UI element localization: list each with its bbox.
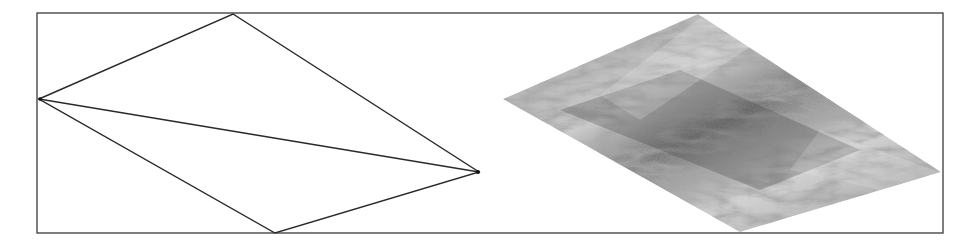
vertex-right [476, 170, 480, 174]
figure [0, 0, 978, 246]
wireframe-quad [39, 14, 479, 233]
quad-outline [39, 14, 479, 233]
quad-diagonal [39, 99, 479, 172]
vertex-left [38, 97, 42, 101]
textured-quad [500, 10, 945, 235]
